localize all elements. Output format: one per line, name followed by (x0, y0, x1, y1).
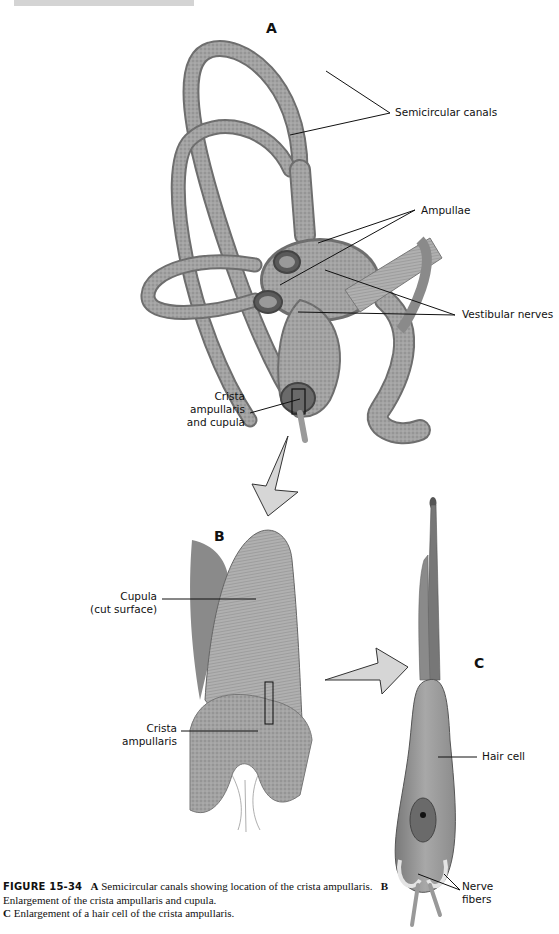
figure-illustration (0, 0, 559, 934)
label-hair-cell: Hair cell (482, 750, 525, 763)
label-line: ampullaris (100, 735, 177, 748)
label-line: Nerve (462, 880, 493, 893)
caption-b-letter: B (381, 880, 388, 892)
label-cupula-cut-surface: Cupula (cut surface) (70, 590, 157, 616)
caption-c-text: Enlargement of a hair cell of the crista… (14, 907, 235, 919)
label-crista-ampullaris-and-cupula: Crista ampullaris and cupula (160, 390, 245, 429)
arrow-a-to-b (252, 436, 298, 516)
label-line: fibers (462, 893, 493, 906)
cupula-crista-drawing (190, 530, 312, 832)
panel-b-letter: B (214, 528, 225, 544)
caption-a-text: Semicircular canals showing location of … (101, 880, 372, 892)
label-line: Crista (160, 390, 245, 403)
panel-a-letter: A (266, 20, 277, 36)
label-line: and cupula (160, 416, 245, 429)
label-line: (cut surface) (70, 603, 157, 616)
caption-b-text: Enlargement of the crista ampullaris and… (3, 894, 216, 906)
label-semicircular-canals: Semicircular canals (395, 106, 497, 119)
label-line: ampullaris (160, 403, 245, 416)
label-ampullae: Ampullae (421, 204, 470, 217)
hair-cell-drawing (395, 497, 455, 925)
figure-caption: FIGURE 15-34 A Semicircular canals showi… (3, 880, 423, 921)
figure-number: FIGURE 15-34 (3, 881, 82, 892)
label-vestibular-nerves: Vestibular nerves (462, 308, 553, 321)
textbook-page: A B C Semicircular canals Ampullae Vesti… (0, 0, 559, 934)
label-nerve-fibers: Nerve fibers (462, 880, 493, 906)
caption-a-letter: A (91, 880, 99, 892)
caption-c-letter: C (3, 907, 11, 919)
panel-c-letter: C (474, 655, 484, 671)
label-line: Cupula (70, 590, 157, 603)
label-line: Crista (100, 722, 177, 735)
arrow-b-to-c (325, 648, 408, 694)
label-crista-ampullaris: Crista ampullaris (100, 722, 177, 748)
